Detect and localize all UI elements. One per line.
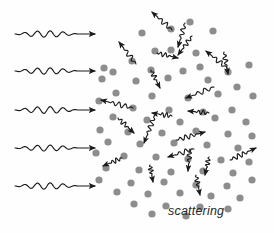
- particle-dot: [136, 140, 143, 147]
- particle-dot: [228, 106, 235, 113]
- particle-dot: [113, 188, 120, 195]
- particle-dot: [144, 190, 151, 197]
- particle-dot: [132, 77, 139, 84]
- particle-dot: [223, 182, 230, 189]
- particle-dot: [162, 202, 169, 209]
- particle-dot: [214, 90, 221, 97]
- particle-dot: [249, 92, 256, 99]
- particle-dot: [242, 118, 249, 125]
- particle-dot: [100, 64, 107, 71]
- particle-dot: [217, 156, 224, 163]
- particle-dot: [234, 144, 241, 151]
- particle-dot: [143, 116, 150, 123]
- particle-dot: [196, 203, 203, 210]
- particle-dot: [196, 63, 203, 70]
- particle-dot: [204, 76, 211, 83]
- particle-dot: [167, 168, 174, 175]
- particle-dot: [186, 18, 193, 25]
- particle-dot: [104, 138, 111, 145]
- particle-dot: [95, 176, 102, 183]
- particle-dot: [229, 169, 236, 176]
- particle-dot: [245, 61, 252, 68]
- particle-dot: [127, 179, 134, 186]
- particle-dot: [209, 27, 216, 34]
- particle-dot: [248, 132, 255, 139]
- particle-dot: [203, 141, 210, 148]
- particle-dot: [95, 97, 102, 104]
- particle-dot: [224, 130, 231, 137]
- particle-dot: [179, 67, 186, 74]
- scattering-diagram-canvas: [0, 0, 274, 233]
- particle-dot: [176, 118, 183, 125]
- particle-dot: [245, 158, 252, 165]
- particle-dot: [109, 113, 116, 120]
- particle-dot: [248, 176, 255, 183]
- particle-dot: [92, 149, 99, 156]
- particle-dot: [182, 212, 189, 219]
- particle-dot: [224, 205, 231, 212]
- scattering-figure: scattering: [0, 0, 274, 233]
- particle-dot: [148, 92, 155, 99]
- particle-dot: [233, 83, 240, 90]
- particle-dot: [112, 89, 119, 96]
- particle-dot: [167, 46, 174, 53]
- particle-dot: [130, 200, 137, 207]
- particle-dot: [98, 75, 105, 82]
- particle-dot: [158, 129, 165, 136]
- particle-dot: [236, 194, 243, 201]
- particle-dot: [192, 49, 199, 56]
- particle-dot: [138, 29, 145, 36]
- particle-dot: [152, 153, 159, 160]
- particle-dot: [176, 189, 183, 196]
- particle-dot: [96, 126, 103, 133]
- particle-dot: [109, 68, 116, 75]
- particle-dot: [135, 166, 142, 173]
- particle-dot: [148, 210, 155, 217]
- particle-dot: [160, 178, 167, 185]
- particle-dot: [164, 74, 171, 81]
- particle-dot: [207, 192, 214, 199]
- particle-dot: [211, 114, 218, 121]
